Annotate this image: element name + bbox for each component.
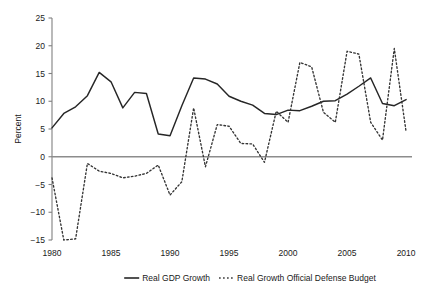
y-tick-label: 10 xyxy=(36,96,46,106)
y-tick-label: −10 xyxy=(31,207,46,217)
x-tick-label: 1990 xyxy=(161,248,180,258)
x-tick-label: 1995 xyxy=(220,248,239,258)
x-tick-label: 2010 xyxy=(397,248,416,258)
y-tick-label: 20 xyxy=(36,41,46,51)
x-tick-label: 1980 xyxy=(43,248,62,258)
y-tick-label: 15 xyxy=(36,69,46,79)
y-tick-labels: −15−10−50510152025 xyxy=(31,13,46,245)
y-tick-label: −15 xyxy=(31,235,46,245)
x-tick-labels: 1980198519901995200020052010 xyxy=(43,248,416,258)
y-axis-title-text: Percent xyxy=(13,114,23,144)
x-tick-label: 2000 xyxy=(279,248,298,258)
x-tick-label: 2005 xyxy=(338,248,357,258)
legend-label-1: Real GDP Growth xyxy=(142,273,210,283)
chart-container: −15−10−50510152025 198019851990199520002… xyxy=(0,0,429,294)
legend-label-2: Real Growth Official Defense Budget xyxy=(237,273,376,283)
x-tick-label: 1985 xyxy=(102,248,121,258)
y-tick-label: 5 xyxy=(40,124,45,134)
y-axis-title: Percent xyxy=(13,114,23,144)
chart-legend: Real GDP GrowthReal Growth Official Defe… xyxy=(124,273,376,283)
y-tick-label: 0 xyxy=(40,152,45,162)
y-tick-label: −5 xyxy=(35,180,45,190)
line-chart: −15−10−50510152025 198019851990199520002… xyxy=(0,0,429,294)
y-tick-label: 25 xyxy=(36,13,46,23)
data-series-group xyxy=(52,49,406,240)
